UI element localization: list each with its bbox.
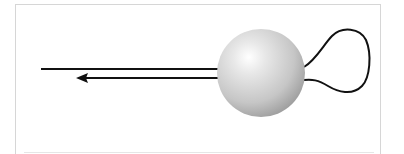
sphere xyxy=(217,29,305,117)
loop-curve xyxy=(304,30,369,92)
sphere-loop-diagram xyxy=(0,0,404,154)
